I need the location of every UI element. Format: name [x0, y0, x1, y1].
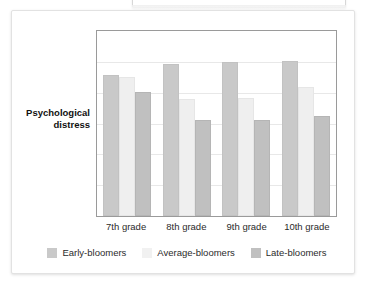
x-axis-tick-labels: 7th grade8th grade9th grade10th grade — [96, 221, 337, 232]
bar-early-bloomers — [282, 61, 298, 216]
legend-swatch-icon — [47, 248, 57, 258]
bar-group — [163, 31, 211, 216]
x-axis-tick-label: 9th grade — [219, 221, 275, 232]
bar-group — [103, 31, 151, 216]
legend-item: Average-bloomers — [142, 247, 234, 258]
y-axis-title-line1: Psychological — [20, 107, 90, 119]
legend-item: Early-bloomers — [47, 247, 126, 258]
bar-groups — [97, 31, 336, 216]
legend-swatch-icon — [251, 248, 261, 258]
legend-item: Late-bloomers — [251, 247, 327, 258]
bar-late-bloomers — [135, 92, 151, 216]
x-axis-tick-label: 8th grade — [158, 221, 214, 232]
plot-area — [96, 30, 337, 217]
background-panel-shadow — [132, 5, 346, 9]
chart-legend: Early-bloomersAverage-bloomersLate-bloom… — [42, 247, 332, 258]
x-axis-tick-label: 10th grade — [279, 221, 335, 232]
legend-label: Average-bloomers — [157, 247, 234, 258]
bar-late-bloomers — [314, 116, 330, 216]
bar-average-bloomers — [179, 99, 195, 216]
bar-average-bloomers — [119, 77, 135, 216]
bar-late-bloomers — [195, 120, 211, 216]
bar-average-bloomers — [298, 87, 314, 217]
bar-early-bloomers — [222, 62, 238, 216]
bar-early-bloomers — [103, 75, 119, 216]
bar-late-bloomers — [254, 120, 270, 216]
bar-group — [282, 31, 330, 216]
chart-card: Psychological distress 7th grade8th grad… — [11, 10, 355, 274]
legend-label: Early-bloomers — [62, 247, 126, 258]
x-axis-tick-label: 7th grade — [98, 221, 154, 232]
legend-swatch-icon — [142, 248, 152, 258]
legend-label: Late-bloomers — [266, 247, 327, 258]
bar-early-bloomers — [163, 64, 179, 216]
bar-average-bloomers — [238, 98, 254, 216]
y-axis-title-line2: distress — [20, 119, 90, 131]
bar-group — [222, 31, 270, 216]
y-axis-title: Psychological distress — [20, 107, 90, 130]
